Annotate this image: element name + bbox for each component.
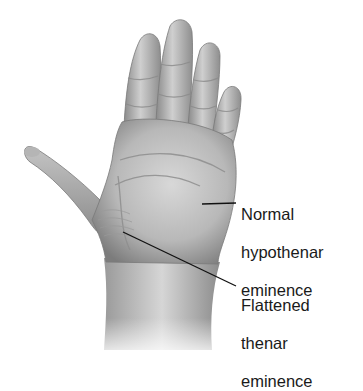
label-line: Flattened <box>241 296 313 315</box>
thumb-nail <box>24 147 40 157</box>
palm <box>92 119 236 264</box>
label-line: Normal <box>241 205 324 224</box>
wrist-fade <box>95 318 225 361</box>
label-line: eminence <box>241 372 313 391</box>
label-flattened-thenar-eminence: Flattened thenar eminence <box>241 277 313 391</box>
label-line: thenar <box>241 334 313 353</box>
middle-finger <box>156 20 193 124</box>
label-line: hypothenar <box>241 243 324 262</box>
